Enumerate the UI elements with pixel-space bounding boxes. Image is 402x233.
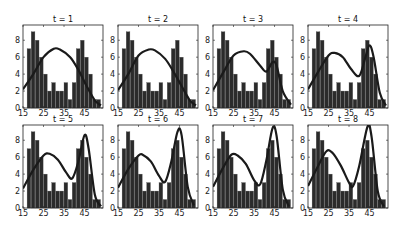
x-tick-label: 45 [269, 209, 279, 218]
histogram-bar [370, 57, 374, 108]
x-tick-label: 15 [208, 109, 218, 118]
subplot-panel: t = 70246815253545 [205, 115, 293, 218]
histogram-bar [258, 100, 262, 108]
histogram-bar [143, 91, 147, 108]
histogram-bar [130, 140, 134, 208]
histogram-bar [275, 157, 279, 208]
histogram-bar [155, 191, 159, 208]
histogram-bar [378, 100, 382, 108]
x-tick-label: 15 [113, 209, 123, 218]
histogram-bar [163, 200, 167, 208]
y-tick-label: 8 [110, 36, 115, 45]
y-tick-label: 6 [300, 53, 305, 62]
histogram-bar [147, 83, 151, 108]
histogram-bar [52, 83, 56, 108]
histogram-bar [76, 49, 80, 108]
histogram-bar [52, 183, 56, 208]
histogram-bar [44, 174, 48, 208]
histogram-bar [225, 40, 229, 108]
histogram-bar [143, 191, 147, 208]
y-tick-label: 4 [300, 170, 305, 179]
histogram-bar [134, 157, 138, 208]
y-tick-label: 4 [205, 170, 210, 179]
histogram-bar [229, 57, 233, 108]
subplot-panel: t = 80246815253545 [300, 115, 388, 218]
histogram-bar [175, 140, 179, 208]
histogram-bar [35, 40, 39, 108]
histogram-bar [139, 174, 143, 208]
x-tick-label: 45 [79, 109, 89, 118]
histogram-bar [370, 157, 374, 208]
histogram-bar [39, 157, 43, 208]
y-tick-label: 2 [15, 87, 20, 96]
subplot-panel: t = 10246815253545 [15, 15, 103, 118]
histogram-bar [60, 191, 64, 208]
x-tick-label: 35 [154, 209, 164, 218]
panel-title: t = 6 [148, 115, 168, 124]
y-tick-label: 8 [205, 136, 210, 145]
histogram-bar [270, 140, 274, 208]
histogram-bar [349, 83, 353, 108]
histogram-bar [329, 74, 333, 108]
y-tick-label: 6 [15, 153, 20, 162]
histogram-bar [68, 100, 72, 108]
histogram-bar [242, 83, 246, 108]
y-tick-label: 2 [15, 187, 20, 196]
histogram-bar [151, 191, 155, 208]
y-tick-label: 8 [300, 136, 305, 145]
y-tick-label: 4 [300, 70, 305, 79]
histogram-bar [254, 183, 258, 208]
histogram-bar [44, 74, 48, 108]
x-tick-label: 45 [79, 209, 89, 218]
histogram-bar [357, 183, 361, 208]
histogram-bar [225, 140, 229, 208]
x-tick-label: 25 [38, 209, 48, 218]
y-tick-label: 4 [205, 70, 210, 79]
histogram-bar [48, 191, 52, 208]
y-tick-label: 8 [15, 36, 20, 45]
histogram-bar [151, 91, 155, 108]
histogram-bar [250, 91, 254, 108]
x-tick-label: 15 [18, 209, 28, 218]
histogram-bar [72, 83, 76, 108]
x-tick-label: 15 [303, 109, 313, 118]
histogram-bar [262, 83, 266, 108]
y-tick-label: 6 [205, 153, 210, 162]
x-tick-label: 15 [208, 209, 218, 218]
y-tick-label: 2 [110, 87, 115, 96]
subplot-panel: t = 20246815253545 [110, 15, 198, 118]
histogram-bar [357, 83, 361, 108]
panel-title: t = 8 [338, 115, 358, 124]
histogram-bar [337, 183, 341, 208]
histogram-bar [72, 183, 76, 208]
histogram-bar [159, 183, 163, 208]
histogram-bar [64, 183, 68, 208]
panel-title: t = 7 [243, 115, 263, 124]
histogram-bar [35, 140, 39, 208]
panel-title: t = 2 [148, 15, 168, 24]
y-tick-label: 2 [300, 187, 305, 196]
histogram-bar [270, 40, 274, 108]
histogram-bar [324, 157, 328, 208]
histogram-bar [180, 157, 184, 208]
x-tick-label: 45 [269, 109, 279, 118]
histogram-bar [171, 49, 175, 108]
histogram-bar [353, 200, 357, 208]
histogram-bar [134, 57, 138, 108]
histogram-bar [283, 100, 287, 108]
histogram-bar [329, 174, 333, 208]
histogram-bar [60, 91, 64, 108]
subplot-panel: t = 60246815253545 [110, 115, 198, 218]
histogram-bar [238, 91, 242, 108]
histogram-bar [39, 57, 43, 108]
x-tick-label: 25 [323, 109, 333, 118]
histogram-bar [64, 83, 68, 108]
panel-title: t = 1 [53, 15, 73, 24]
histogram-bar [345, 91, 349, 108]
histogram-bar [333, 91, 337, 108]
histogram-bar [234, 174, 238, 208]
histogram-bar [56, 91, 60, 108]
histogram-bar [48, 91, 52, 108]
histogram-bar [242, 183, 246, 208]
histogram-bar [266, 49, 270, 108]
